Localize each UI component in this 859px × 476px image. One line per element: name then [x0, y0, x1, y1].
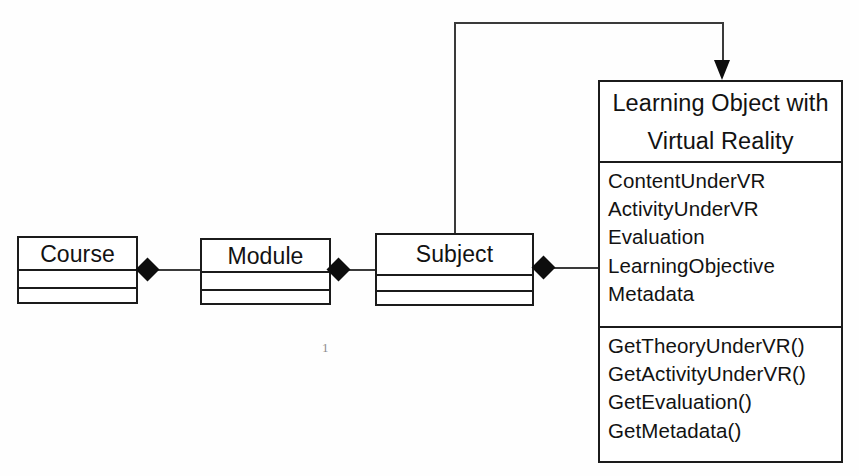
class-name-compartment-course: Course [19, 238, 136, 269]
class-box-module[interactable]: Module [200, 238, 331, 305]
class-name-compartment-subject: Subject [377, 235, 532, 274]
class-box-course[interactable]: Course [17, 236, 138, 304]
class-operation: GetTheoryUnderVR() [600, 332, 841, 360]
association-segment-down-to-vr [722, 22, 724, 64]
class-operation: GetEvaluation() [600, 388, 841, 416]
class-operations-compartment-learning-object-vr: GetTheoryUnderVR() GetActivityUnderVR() … [600, 326, 841, 450]
class-box-learning-object-vr[interactable]: Learning Object with Virtual Reality Con… [598, 80, 843, 463]
class-name-subject: Subject [377, 235, 532, 272]
class-operations-compartment-course [19, 287, 136, 305]
class-attribute: LearningObjective [600, 252, 841, 280]
arrowhead-icon-association-to-vr [714, 60, 730, 80]
class-name-compartment-learning-object-vr: Learning Object with Virtual Reality [600, 82, 841, 161]
filled-diamond-icon-subject [531, 255, 555, 279]
multiplicity-label-1: 1 [322, 340, 329, 356]
class-attributes-compartment-subject [377, 274, 532, 290]
class-attributes-compartment-course [19, 269, 136, 287]
uml-class-diagram: 1 Course Module Subject Learning Object … [0, 0, 859, 476]
class-attribute: ContentUnderVR [600, 167, 841, 195]
class-operations-compartment-module [202, 289, 329, 307]
class-name-learning-object-vr-line1: Learning Object with [600, 82, 841, 126]
class-name-course: Course [19, 238, 136, 269]
filled-diamond-icon-course [135, 257, 159, 281]
class-operation: GetActivityUnderVR() [600, 360, 841, 388]
class-attribute: Evaluation [600, 223, 841, 251]
class-name-compartment-module: Module [202, 240, 329, 271]
association-segment-up-from-subject [454, 23, 456, 234]
class-attribute: ActivityUnderVR [600, 195, 841, 223]
class-attributes-compartment-module [202, 271, 329, 289]
class-attributes-compartment-learning-object-vr: ContentUnderVR ActivityUnderVR Evaluatio… [600, 161, 841, 326]
class-box-subject[interactable]: Subject [375, 233, 534, 306]
class-name-learning-object-vr-line2: Virtual Reality [600, 126, 841, 164]
class-operation: GetMetadata() [600, 417, 841, 445]
class-operations-compartment-subject [377, 290, 532, 308]
association-segment-horizontal-top [454, 22, 724, 24]
class-attribute: Metadata [600, 280, 841, 308]
class-name-module: Module [202, 240, 329, 271]
